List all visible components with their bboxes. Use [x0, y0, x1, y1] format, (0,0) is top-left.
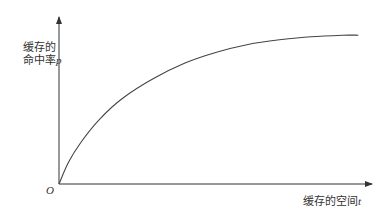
y-axis-label: 缓存的 命中率p: [23, 41, 62, 67]
y-axis-label-line2: 命中率p: [23, 54, 62, 67]
origin-label: O: [46, 184, 54, 197]
y-axis-label-line1: 缓存的: [23, 41, 62, 54]
hit-rate-chart: [0, 0, 392, 220]
hit-rate-curve: [59, 35, 358, 184]
x-axis-variable: t: [358, 195, 361, 207]
y-axis-variable: p: [56, 54, 62, 66]
x-axis-label: 缓存的空间t: [303, 195, 361, 208]
